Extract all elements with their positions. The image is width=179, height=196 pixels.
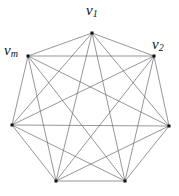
edge-v3-vm <box>28 56 169 126</box>
complete-graph-diagram <box>0 0 179 196</box>
edge-v1-v6 <box>12 33 92 125</box>
edge-v1-v5 <box>56 33 92 181</box>
edge-v5-vm <box>28 56 56 181</box>
edge-v1-v4 <box>92 33 125 181</box>
vertex-v3 <box>168 125 171 128</box>
edge-v2-v6 <box>12 56 154 125</box>
vertex-label-v2: v2 <box>152 37 164 53</box>
edge-v3-v5 <box>56 126 169 181</box>
vertex-label-v1: v1 <box>86 3 98 19</box>
edge-v6-vm <box>12 56 28 125</box>
vertex-v4 <box>124 180 127 183</box>
vertex-label-vm: vm <box>4 43 18 59</box>
vertex-vm <box>27 55 30 58</box>
graph-vertices <box>11 32 171 183</box>
vertex-v1 <box>91 32 94 35</box>
vertex-v5 <box>55 180 58 183</box>
edge-v4-vm <box>28 56 125 181</box>
edge-v4-v6 <box>12 125 125 181</box>
vertex-v6 <box>11 124 14 127</box>
edge-v3-v6 <box>12 125 169 126</box>
vertex-v2 <box>153 55 156 58</box>
graph-edges <box>12 33 169 181</box>
edge-v2-v3 <box>154 56 169 126</box>
